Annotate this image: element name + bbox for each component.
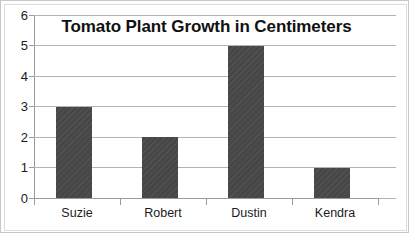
y-axis-tick-label-5: 5 [8,39,28,52]
gridline-4 [34,76,396,77]
plot-area [34,15,396,198]
x-axis-tick-end [378,199,379,205]
x-axis-tick-start [34,199,35,205]
x-axis-tick-2 [206,199,207,205]
x-axis-tick-1 [120,199,121,205]
bar-robert[interactable] [142,137,178,198]
x-axis-label-kendra: Kendra [292,206,378,221]
y-axis-tick-label-6: 6 [8,9,28,22]
y-axis-tick-label-1: 1 [8,161,28,174]
x-axis-label-robert: Robert [120,206,206,221]
x-axis-label-dustin: Dustin [206,206,292,221]
y-axis-tick-label-2: 2 [8,131,28,144]
bar-kendra[interactable] [314,168,350,199]
y-axis-tick-label-0: 0 [8,192,28,205]
y-axis-labels: 6 5 4 3 2 1 0 [1,1,28,233]
gridline-5 [34,45,396,46]
x-axis-label-suzie: Suzie [34,206,120,221]
bar-suzie[interactable] [56,107,92,199]
bar-dustin[interactable] [228,46,264,199]
x-axis-tick-3 [292,199,293,205]
chart-frame: Tomato Plant Growth in Centimeters 6 5 4… [0,0,409,233]
y-axis-tick-label-4: 4 [8,70,28,83]
gridline-6 [34,15,396,16]
y-axis-tick-label-3: 3 [8,100,28,113]
